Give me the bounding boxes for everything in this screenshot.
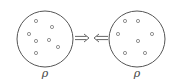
double-arrow-left-icon [94,34,108,42]
particle-icon [116,32,119,35]
particle-icon [50,25,53,28]
particle-icon [143,51,146,54]
particle-icon [136,39,139,42]
particle-icon [34,51,37,54]
particle-icon [123,19,126,22]
arrows [75,34,108,42]
left-system-boundary-circle [17,11,73,67]
right-system [109,11,165,67]
right-rho-label: ρ [133,67,141,80]
diagram-canvas: ρ ρ [0,0,171,81]
particle-icon [27,32,30,35]
double-arrow-right-icon [75,34,89,42]
particle-icon [123,51,126,54]
left-rho-label: ρ [41,67,49,80]
particle-icon [47,38,50,41]
left-system [17,11,73,67]
particle-icon [150,32,153,35]
particle-icon [34,39,37,42]
particle-icon [136,19,139,22]
particle-icon [56,45,59,48]
particle-icon [34,19,37,22]
